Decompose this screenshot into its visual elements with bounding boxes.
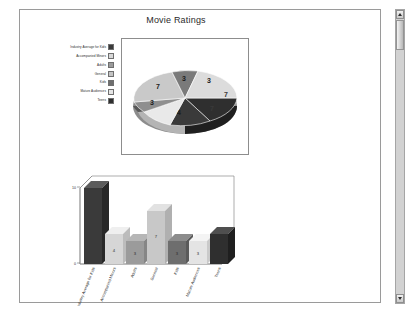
scroll-up-arrow-icon bbox=[398, 13, 402, 16]
legend-item[interactable]: Kids bbox=[30, 79, 114, 88]
x-axis-label-mature-audiences: Mature Audiences bbox=[185, 266, 201, 297]
x-axis-label-kids: Kids bbox=[172, 266, 179, 275]
x-axis-label-adults: Adults bbox=[129, 266, 138, 278]
page-frame: Movie Ratings Industry Average for Kids … bbox=[19, 9, 381, 303]
legend-color-swatch bbox=[108, 89, 114, 95]
bar-chart-panel[interactable]: 10 0 bbox=[62, 166, 252, 306]
legend-item-label: Accompanied Minors bbox=[76, 55, 106, 58]
y-axis-tick-min: 0 bbox=[74, 262, 76, 266]
legend-item[interactable]: Teens bbox=[30, 96, 114, 105]
legend-color-swatch bbox=[108, 62, 114, 68]
legend-item-label: Industry Average for Kids bbox=[70, 46, 106, 49]
pie-chart-legend: Industry Average for Kids Accompanied Mi… bbox=[30, 43, 114, 105]
scroll-down-arrow-icon bbox=[398, 297, 402, 300]
pie-label-teens: 7 bbox=[224, 91, 228, 98]
legend-item[interactable]: Mature Audiences bbox=[30, 87, 114, 96]
legend-item[interactable]: Accompanied Minors bbox=[30, 52, 114, 61]
legend-color-swatch bbox=[108, 71, 114, 77]
legend-item[interactable]: Adults bbox=[30, 61, 114, 70]
legend-item-label: General bbox=[95, 73, 106, 76]
legend-item-label: Kids bbox=[100, 81, 106, 84]
x-axis-label-general: General bbox=[149, 266, 159, 281]
x-axis-label-teens: Teens bbox=[213, 266, 222, 278]
legend-item-label: Teens bbox=[97, 99, 106, 102]
pie-chart-panel[interactable]: 7 3 3 7 7 4 3 bbox=[121, 38, 249, 155]
x-axis-label-accompanied-minors: Accompanied Minors bbox=[99, 266, 117, 302]
legend-color-swatch bbox=[108, 53, 114, 59]
scrollbar-thumb[interactable] bbox=[396, 20, 404, 50]
bar-chart: 10 0 bbox=[62, 166, 252, 306]
legend-item[interactable]: General bbox=[30, 70, 114, 79]
page-title: Movie Ratings bbox=[106, 15, 246, 25]
scroll-down-button[interactable] bbox=[396, 294, 404, 303]
legend-item-label: Adults bbox=[97, 64, 106, 67]
legend-color-swatch bbox=[108, 98, 114, 104]
pie-label-accompanied-minors: 4 bbox=[177, 109, 181, 116]
pie-label-kids: 3 bbox=[182, 75, 186, 82]
pie-label-industry-average: 7 bbox=[210, 105, 214, 112]
vertical-scrollbar[interactable] bbox=[395, 9, 405, 304]
legend-item[interactable]: Industry Average for Kids bbox=[30, 43, 114, 52]
pie-label-mature-audiences: 3 bbox=[207, 77, 211, 84]
document-canvas: Movie Ratings Industry Average for Kids … bbox=[0, 0, 414, 313]
legend-color-swatch bbox=[108, 44, 114, 50]
x-axis-label-industry-average: Industry Average for Kids bbox=[75, 266, 96, 306]
pie-label-adults: 3 bbox=[150, 99, 154, 106]
y-axis-tick-max: 10 bbox=[72, 186, 76, 190]
legend-color-swatch bbox=[108, 80, 114, 86]
pie-chart: 7 3 3 7 7 4 3 bbox=[122, 39, 248, 154]
legend-item-label: Mature Audiences bbox=[80, 90, 106, 93]
scrollbar-track[interactable] bbox=[396, 19, 404, 294]
pie-label-general: 7 bbox=[156, 83, 160, 90]
scroll-up-button[interactable] bbox=[396, 10, 404, 19]
bar-teens bbox=[210, 227, 235, 264]
